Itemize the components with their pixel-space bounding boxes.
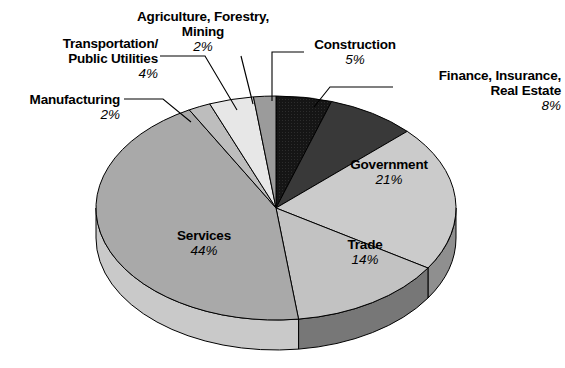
label-manufacturing-line1: Manufacturing xyxy=(4,92,120,107)
label-manufacturing: Manufacturing 2% xyxy=(4,92,120,122)
label-government-percent: 21% xyxy=(330,172,448,187)
label-agriculture: Agriculture, Forestry, Mining 2% xyxy=(118,9,288,54)
label-agriculture-line1: Agriculture, Forestry, xyxy=(118,9,288,24)
label-trade: Trade 14% xyxy=(320,237,410,267)
label-construction-percent: 5% xyxy=(300,52,410,67)
label-agriculture-line2: Mining xyxy=(118,24,288,39)
label-services: Services 44% xyxy=(152,228,256,258)
label-finance-line2: Real Estate xyxy=(395,83,561,98)
pie-chart: Transportation/ Public Utilities 4% Agri… xyxy=(0,0,565,368)
leader-line-agriculture xyxy=(241,56,253,104)
label-finance: Finance, Insurance, Real Estate 8% xyxy=(395,68,561,113)
label-finance-percent: 8% xyxy=(395,98,561,113)
label-transportation-percent: 4% xyxy=(8,66,158,81)
label-government-name: Government xyxy=(330,157,448,172)
label-services-name: Services xyxy=(152,228,256,243)
label-trade-percent: 14% xyxy=(320,252,410,267)
label-finance-line1: Finance, Insurance, xyxy=(395,68,561,83)
label-government: Government 21% xyxy=(330,157,448,187)
pie-top-faces xyxy=(96,96,456,320)
label-services-percent: 44% xyxy=(152,243,256,258)
label-manufacturing-percent: 2% xyxy=(4,107,120,122)
label-trade-name: Trade xyxy=(320,237,410,252)
label-construction-line1: Construction xyxy=(300,37,410,52)
label-construction: Construction 5% xyxy=(300,37,410,67)
label-agriculture-percent: 2% xyxy=(118,39,288,54)
